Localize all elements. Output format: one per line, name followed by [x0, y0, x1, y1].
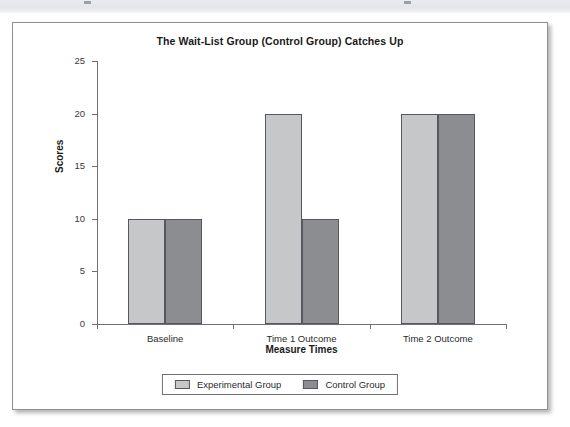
bar-group	[97, 61, 506, 324]
scan-speck	[84, 1, 91, 4]
legend-item[interactable]: Control Group	[303, 379, 385, 390]
legend-label: Control Group	[325, 379, 385, 390]
legend-swatch-icon	[303, 380, 318, 389]
legend-label: Experimental Group	[197, 379, 281, 390]
scan-speck	[404, 1, 411, 4]
x-axis-title: Measure Times	[97, 344, 506, 355]
bar-control[interactable]	[438, 114, 475, 324]
x-axis-separator	[233, 324, 234, 329]
x-axis-line	[97, 324, 506, 325]
x-axis-separator	[506, 324, 507, 329]
x-axis-separator	[370, 324, 371, 329]
y-axis-title: Scores	[54, 140, 65, 173]
legend-swatch-icon	[175, 380, 190, 389]
scan-artifact-strip	[0, 0, 570, 13]
x-axis-category-label: Baseline	[97, 333, 233, 344]
x-axis-separator	[97, 324, 98, 329]
x-axis-category-label: Time 2 Outcome	[370, 333, 506, 344]
legend-item[interactable]: Experimental Group	[175, 379, 281, 390]
plot-area: 0510152025 BaselineTime 1 OutcomeTime 2 …	[97, 61, 506, 324]
x-axis-category-label: Time 1 Outcome	[233, 333, 369, 344]
chart-title: The Wait-List Group (Control Group) Catc…	[13, 35, 547, 47]
chart-figure-frame: The Wait-List Group (Control Group) Catc…	[12, 22, 548, 410]
chart-legend: Experimental GroupControl Group	[162, 374, 398, 395]
bar-experimental[interactable]	[401, 114, 438, 324]
